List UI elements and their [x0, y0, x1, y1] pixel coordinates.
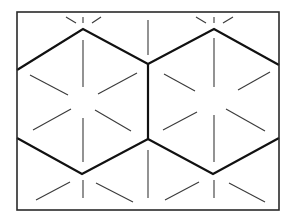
hexagon-tiling-diagram [0, 0, 294, 222]
